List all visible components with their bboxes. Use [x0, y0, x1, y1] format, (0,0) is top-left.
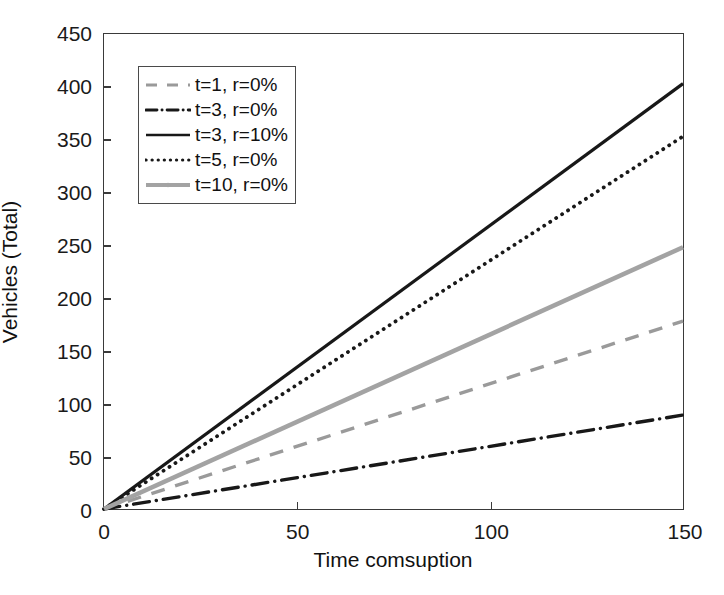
y-axis-title: Vehicles (Total)	[0, 201, 22, 343]
y-axis-tick-label: 100	[57, 392, 92, 418]
y-axis-tick-label: 450	[57, 21, 92, 47]
chart-figure: Vehicles (Total) Time comsuption 0501001…	[0, 0, 724, 595]
y-axis-tick-label: 50	[69, 445, 92, 471]
legend-item: t=10, r=0%	[145, 172, 289, 197]
y-axis-tick-label: 350	[57, 127, 92, 153]
y-axis-tick-mark	[104, 457, 111, 459]
y-axis-tick-mark	[104, 404, 111, 406]
legend-item: t=3, r=10%	[145, 122, 289, 147]
y-axis-tick-label: 0	[80, 498, 92, 524]
y-axis-tick-mark	[104, 245, 111, 247]
x-axis-tick-mark	[491, 502, 493, 509]
legend-item-label: t=10, r=0%	[195, 175, 288, 195]
y-axis-tick-label: 400	[57, 74, 92, 100]
x-axis-title: Time comsuption	[313, 548, 472, 572]
legend-item-label: t=3, r=10%	[195, 125, 288, 145]
legend-item: t=3, r=0%	[145, 97, 289, 122]
legend-item-label: t=1, r=0%	[195, 75, 277, 95]
y-axis-tick-mark	[104, 86, 111, 88]
chart-legend: t=1, r=0%t=3, r=0%t=3, r=10%t=5, r=0%t=1…	[138, 66, 296, 204]
legend-item-label: t=3, r=0%	[195, 100, 277, 120]
legend-line-sample	[145, 77, 191, 93]
x-axis-tick-label: 150	[667, 519, 702, 545]
y-axis-tick-mark	[104, 298, 111, 300]
legend-item-label: t=5, r=0%	[195, 150, 277, 170]
y-axis-tick-label: 300	[57, 180, 92, 206]
y-axis-tick-label: 150	[57, 339, 92, 365]
y-axis-tick-label: 200	[57, 286, 92, 312]
legend-marker-dot	[166, 182, 170, 186]
series-line	[104, 321, 683, 509]
legend-item: t=5, r=0%	[145, 147, 289, 172]
x-axis-tick-mark	[297, 502, 299, 509]
series-line	[104, 415, 683, 509]
legend-line-sample	[145, 127, 191, 143]
y-axis-tick-mark	[104, 139, 111, 141]
x-axis-tick-label: 50	[286, 519, 309, 545]
series-line	[104, 247, 683, 509]
x-axis-tick-label: 100	[474, 519, 509, 545]
y-axis-tick-mark	[104, 192, 111, 194]
y-axis-tick-mark	[104, 351, 111, 353]
legend-item: t=1, r=0%	[145, 72, 289, 97]
x-axis-tick-label: 0	[98, 519, 110, 545]
y-axis-tick-label: 250	[57, 233, 92, 259]
legend-line-sample	[145, 152, 191, 168]
legend-line-sample	[145, 177, 191, 193]
legend-line-sample	[145, 102, 191, 118]
